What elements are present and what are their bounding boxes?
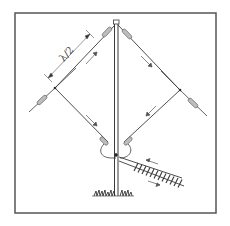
arrow-feed-top (146, 159, 158, 165)
arrow-feed-bottom (148, 181, 160, 187)
arrow-upper-right (141, 56, 152, 67)
arrow-lower-left (86, 115, 97, 126)
insulator-far-left (36, 94, 48, 105)
lower-right-wire (124, 71, 180, 142)
frame-border (15, 13, 216, 213)
insulator-far-right (187, 97, 198, 108)
arrow-lower-right (146, 106, 156, 116)
ground-grass (92, 190, 134, 196)
feed-loop (101, 144, 131, 158)
mast (114, 20, 120, 196)
insulator-upper-left (101, 26, 112, 37)
antenna-diagram: λ/2 (0, 0, 230, 226)
dimension-label: λ/2 (57, 44, 76, 63)
insulators (36, 26, 198, 146)
insulator-upper-right (121, 28, 132, 39)
